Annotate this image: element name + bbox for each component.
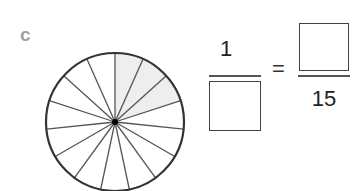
equals-sign: = <box>272 56 285 82</box>
left-denominator-box[interactable] <box>209 81 261 131</box>
right-denominator: 15 <box>298 86 350 112</box>
left-numerator: 1 <box>200 36 252 62</box>
right-numerator-box[interactable] <box>299 23 349 71</box>
left-fraction-bar <box>209 75 261 77</box>
right-fraction-bar <box>298 75 350 77</box>
